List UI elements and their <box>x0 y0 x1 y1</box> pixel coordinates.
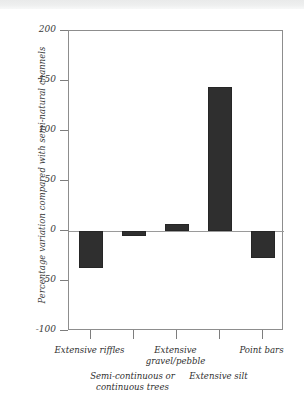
x-tick-label-3: Extensive silt <box>171 371 267 382</box>
x-tick-4 <box>262 330 263 339</box>
y-tick-100 <box>60 130 68 131</box>
bar-2 <box>165 224 189 231</box>
y-tick-label--50: -50 <box>10 274 56 284</box>
plot-area <box>68 30 283 330</box>
y-tick-150 <box>60 80 68 81</box>
y-tick-label-200: 200 <box>10 24 56 34</box>
chart-figure: Percentage variation compared with semi-… <box>0 0 304 403</box>
bar-0 <box>79 231 103 268</box>
x-tick-label-1: Semi-continuous or continuous trees <box>85 371 181 392</box>
y-tick-label--100: -100 <box>10 324 56 334</box>
y-tick--50 <box>60 280 68 281</box>
y-tick-label-50: 50 <box>10 174 56 184</box>
x-tick-label-2: Extensive gravel/pebble <box>128 345 224 366</box>
page-scan-band <box>0 0 304 9</box>
y-tick-200 <box>60 30 68 31</box>
x-tick-label-4: Point bars <box>214 345 305 356</box>
y-tick-label-0: 0 <box>10 224 56 234</box>
x-tick-label-0: Extensive riffles <box>42 345 138 356</box>
y-tick-label-100: 100 <box>10 124 56 134</box>
x-tick-0 <box>90 330 91 339</box>
x-tick-3 <box>219 330 220 339</box>
y-tick-0 <box>60 230 68 231</box>
x-tick-1 <box>133 330 134 339</box>
y-tick-50 <box>60 180 68 181</box>
y-tick-label-150: 150 <box>10 74 56 84</box>
x-tick-2 <box>176 330 177 339</box>
bar-1 <box>122 231 146 236</box>
bar-3 <box>208 87 232 231</box>
y-tick--100 <box>60 330 68 331</box>
bar-4 <box>251 231 275 258</box>
